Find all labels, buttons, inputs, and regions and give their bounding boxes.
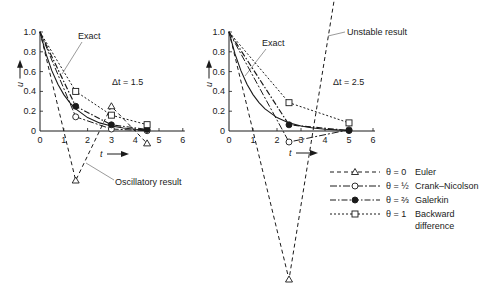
- x-tick-label: 2: [274, 135, 279, 145]
- filled-circle-marker: [352, 197, 358, 203]
- y-tick-label: 0.6: [212, 67, 225, 77]
- x-tick-label: 2: [85, 135, 90, 145]
- legend: θ = 0Eulerθ = ½Crank–Nicolsonθ = ⅔Galerk…: [330, 167, 479, 231]
- x-tick-label: 5: [156, 135, 161, 145]
- filled-circle-marker: [346, 128, 352, 134]
- legend-item-gal: θ = ⅔Galerkin: [330, 195, 449, 205]
- y-tick-label: 0: [220, 126, 225, 136]
- legend-theta: θ = 1: [386, 209, 406, 219]
- legend-theta: θ = ½: [386, 181, 409, 191]
- y-tick-label: 0.2: [23, 106, 36, 116]
- x-tick-label: 3: [109, 135, 114, 145]
- legend-label: Euler: [415, 167, 436, 177]
- exact-curve: [229, 32, 349, 130]
- x-axis-label: t: [100, 149, 103, 159]
- arrow-right-icon: [121, 151, 129, 157]
- legend-label-line2: difference: [415, 221, 454, 231]
- x-tick-label: 6: [180, 135, 185, 145]
- square-marker: [73, 88, 79, 94]
- right-chart: 012345600.20.40.60.81.0utΔt = 2.5ExactUn…: [204, 0, 408, 282]
- filled-circle-marker: [108, 122, 114, 128]
- bd-line: [229, 32, 349, 123]
- arrow-right-icon: [310, 150, 318, 156]
- x-tick-label: 4: [322, 135, 327, 145]
- delta-t-label: Δt = 2.5: [333, 77, 364, 87]
- y-axis-label: u: [204, 82, 214, 87]
- y-tick-label: 1.0: [212, 27, 225, 37]
- square-marker: [286, 100, 292, 106]
- y-tick-label: 0: [31, 126, 36, 136]
- legend-item-cn: θ = ½Crank–Nicolson: [330, 181, 479, 191]
- legend-label: Crank–Nicolson: [415, 181, 479, 191]
- legend-item-bd: θ = 1Backwarddifference: [330, 209, 455, 231]
- unstable-result-label: Unstable result: [347, 27, 408, 37]
- square-marker: [352, 211, 358, 217]
- exact-label: Exact: [78, 31, 101, 41]
- x-axis-label: t: [289, 148, 292, 158]
- y-tick-label: 0.4: [23, 86, 36, 96]
- x-tick-label: 6: [370, 135, 375, 145]
- legend-label: Backward: [415, 209, 455, 219]
- open-circle-marker: [352, 183, 358, 189]
- x-tick-label: 0: [37, 135, 42, 145]
- x-tick-label: 5: [346, 135, 351, 145]
- legend-item-euler: θ = 0Euler: [330, 167, 436, 177]
- gal-line: [229, 32, 349, 131]
- y-tick-label: 0.4: [212, 86, 225, 96]
- left-chart: 012345600.20.40.60.81.0utΔt = 1.5ExactOs…: [15, 27, 185, 187]
- y-tick-label: 0.8: [212, 47, 225, 57]
- filled-circle-marker: [73, 103, 79, 109]
- arrow-up-icon: [206, 60, 212, 68]
- legend-theta: θ = ⅔: [386, 195, 409, 205]
- y-tick-label: 0.2: [212, 106, 225, 116]
- legend-label: Galerkin: [415, 195, 449, 205]
- euler-line: [40, 32, 147, 181]
- figure: 012345600.20.40.60.81.0utΔt = 1.5ExactOs…: [0, 0, 484, 295]
- arrow-up-icon: [17, 60, 23, 68]
- x-tick-label: 0: [226, 135, 231, 145]
- y-tick-label: 0.8: [23, 47, 36, 57]
- y-tick-label: 1.0: [23, 27, 36, 37]
- legend-theta: θ = 0: [386, 167, 406, 177]
- open-circle-marker: [286, 139, 292, 145]
- oscillatory-result-label: Oscillatory result: [115, 177, 182, 187]
- y-axis-label: u: [15, 82, 25, 87]
- square-marker: [144, 122, 150, 128]
- triangle-marker: [108, 103, 115, 109]
- x-tick-label: 4: [133, 135, 138, 145]
- triangle-marker: [286, 276, 293, 282]
- exact-label: Exact: [262, 38, 285, 48]
- filled-circle-marker: [286, 122, 292, 128]
- delta-t-label: Δt = 1.5: [112, 77, 143, 87]
- open-circle-marker: [73, 114, 79, 120]
- triangle-marker: [72, 177, 79, 183]
- square-marker: [108, 112, 114, 118]
- square-marker: [346, 120, 352, 126]
- y-tick-label: 0.6: [23, 67, 36, 77]
